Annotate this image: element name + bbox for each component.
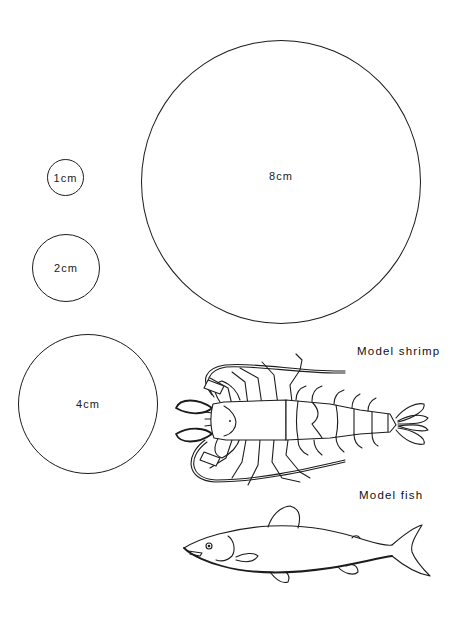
scale-figure: 1cm 2cm 4cm 8cm Model shrimp [0,0,469,618]
fish-icon [0,0,469,618]
